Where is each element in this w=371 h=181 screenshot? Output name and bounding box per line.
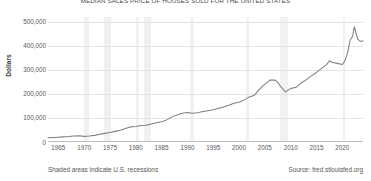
y-tick-label: 100,000: [2, 114, 46, 121]
x-tick-label: 2015: [310, 144, 324, 152]
y-tick-label: 0: [2, 139, 46, 146]
y-tick-label: 400,000: [2, 42, 46, 49]
x-tick-label: 1995: [206, 144, 220, 152]
plot-area: [48, 17, 363, 142]
x-tick-label: 2000: [232, 144, 246, 152]
x-axis-baseline: [48, 141, 363, 142]
x-tick-label: 1985: [155, 144, 169, 152]
x-tick-label: 1975: [103, 144, 117, 152]
series-line-layer: [48, 17, 363, 142]
series-line: [48, 27, 363, 138]
y-tick-label: 200,000: [2, 90, 46, 97]
x-axis-tick-labels: 1965197019751980198519901995200020052010…: [48, 144, 363, 154]
chart-title: MEDIAN SALES PRICE OF HOUSES SOLD FOR TH…: [0, 0, 371, 5]
y-tick-label: 500,000: [2, 18, 46, 25]
x-tick-label: 1990: [180, 144, 194, 152]
y-tick-label: 300,000: [2, 66, 46, 73]
x-tick-label: 1970: [77, 144, 91, 152]
x-tick-label: 2020: [335, 144, 349, 152]
fred-chart: MEDIAN SALES PRICE OF HOUSES SOLD FOR TH…: [0, 0, 371, 181]
x-tick-label: 2005: [258, 144, 272, 152]
x-tick-label: 2010: [284, 144, 298, 152]
y-axis-tick-labels: 0100,000200,000300,000400,000500,000: [0, 17, 46, 142]
source-label: Source: fred.stlouisfed.org: [288, 165, 363, 174]
chart-footer: Shaded areas indicate U.S. recessions So…: [0, 165, 371, 174]
x-tick-label: 1980: [129, 144, 143, 152]
recession-note: Shaded areas indicate U.S. recessions: [48, 165, 158, 174]
x-tick-label: 1965: [51, 144, 65, 152]
